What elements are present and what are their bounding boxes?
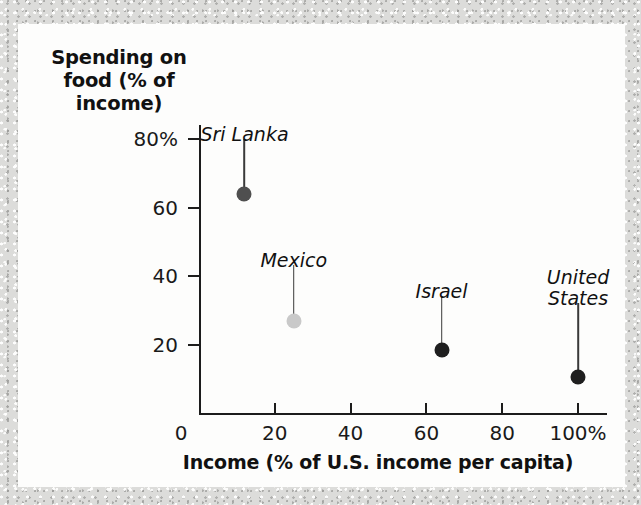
x-tick bbox=[577, 403, 579, 414]
y-tick-label: 20 bbox=[153, 333, 178, 357]
y-axis-title-line-3: income) bbox=[40, 92, 198, 115]
x-tick-label: 20 bbox=[262, 421, 287, 445]
y-tick bbox=[188, 275, 199, 277]
x-axis-line bbox=[199, 413, 607, 415]
data-point[interactable] bbox=[434, 342, 449, 357]
leader-line bbox=[441, 296, 443, 343]
x-tick-label: 60 bbox=[414, 421, 439, 445]
x-tick-label: 80 bbox=[489, 421, 514, 445]
leader-line bbox=[244, 139, 246, 188]
data-point-label: Israel bbox=[416, 281, 468, 302]
y-tick bbox=[188, 344, 199, 346]
x-tick-label: 100% bbox=[549, 421, 606, 445]
y-tick-label: 40 bbox=[153, 264, 178, 288]
x-tick bbox=[425, 403, 427, 414]
plot-area: 20406080% 020406080100% Sri LankaMexicoI… bbox=[181, 125, 625, 445]
leader-line bbox=[293, 265, 295, 314]
y-axis-title-line-1: Spending on bbox=[40, 46, 198, 69]
x-tick-label: 0 bbox=[175, 421, 188, 445]
data-point[interactable] bbox=[237, 187, 252, 202]
x-tick bbox=[274, 403, 276, 414]
x-axis-title: Income (% of U.S. income per capita) bbox=[138, 451, 618, 473]
y-axis-title-line-2: food (% of bbox=[40, 69, 198, 92]
y-axis-line bbox=[199, 125, 201, 415]
data-point-label: United States bbox=[547, 267, 609, 309]
y-tick-label: 60 bbox=[153, 196, 178, 220]
x-tick bbox=[501, 403, 503, 414]
y-axis-title: Spending on food (% of income) bbox=[40, 46, 198, 115]
data-point-label: Mexico bbox=[260, 250, 327, 271]
data-point-label: Sri Lanka bbox=[200, 124, 288, 145]
data-point[interactable] bbox=[571, 370, 586, 385]
x-tick-label: 40 bbox=[338, 421, 363, 445]
x-tick bbox=[350, 403, 352, 414]
scanned-page-background: Spending on food (% of income) 20406080%… bbox=[0, 0, 641, 505]
y-tick bbox=[188, 207, 199, 209]
leader-line bbox=[577, 303, 579, 370]
y-tick-label: 80% bbox=[134, 127, 178, 151]
chart-panel: Spending on food (% of income) 20406080%… bbox=[18, 24, 625, 487]
y-tick bbox=[188, 138, 199, 140]
data-point[interactable] bbox=[286, 313, 301, 328]
